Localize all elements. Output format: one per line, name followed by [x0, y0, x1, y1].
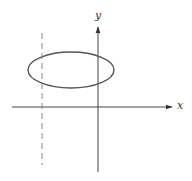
ellipse-curve	[28, 52, 114, 88]
y-axis-label: y	[95, 10, 101, 21]
coordinate-diagram	[0, 0, 192, 181]
x-axis-label: x	[177, 100, 183, 111]
